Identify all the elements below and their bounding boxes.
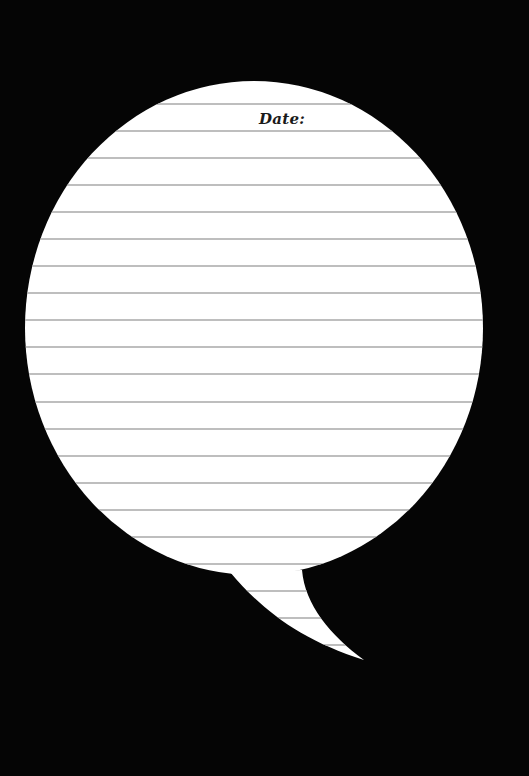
date-label: Date: <box>242 110 322 128</box>
bubble-body <box>25 81 483 575</box>
